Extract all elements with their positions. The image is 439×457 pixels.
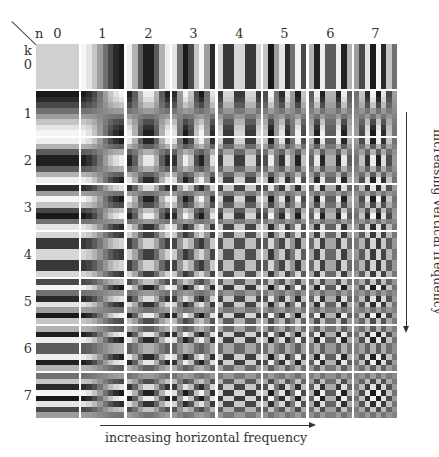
basis-tile-n2-k5	[127, 279, 170, 324]
basis-tile-n1-k0	[81, 44, 124, 89]
basis-tile-n5-k1	[263, 91, 306, 136]
basis-tile-n3-k0	[172, 44, 215, 89]
tile-cell	[392, 271, 397, 277]
basis-tile-n0-k5	[36, 279, 79, 324]
tile-cell	[165, 365, 170, 371]
basis-tile-n4-k0	[218, 44, 261, 89]
basis-tile-n4-k5	[218, 279, 261, 324]
tile-cell	[347, 318, 352, 324]
basis-tile-n3-k6	[172, 326, 215, 371]
basis-tile-n0-k0	[36, 44, 79, 89]
tile-cell	[165, 83, 170, 89]
tile-cell	[347, 224, 352, 230]
tile-cell	[256, 365, 261, 371]
row-label-k6: 6	[21, 342, 35, 355]
tile-cell	[301, 177, 306, 183]
tile-cell	[347, 412, 352, 418]
tile-cell	[210, 83, 215, 89]
basis-tile-n2-k0	[127, 44, 170, 89]
basis-tile-n1-k4	[81, 232, 124, 277]
basis-tile-n1-k7	[81, 373, 124, 418]
tile-cell	[210, 224, 215, 230]
basis-tile-n0-k3	[36, 185, 79, 230]
basis-tile-n7-k3	[354, 185, 397, 230]
column-label-n5: 5	[275, 27, 295, 40]
tile-cell	[301, 224, 306, 230]
tile-cell	[392, 365, 397, 371]
basis-tile-n0-k6	[36, 326, 79, 371]
basis-tile-n7-k1	[354, 91, 397, 136]
tile-cell	[347, 271, 352, 277]
tile-cell	[165, 271, 170, 277]
tile-cell	[119, 130, 124, 136]
tile-cell	[256, 318, 261, 324]
tile-cell	[210, 318, 215, 324]
tile-cell	[392, 224, 397, 230]
row-label-k4: 4	[21, 248, 35, 261]
tile-cell	[74, 224, 79, 230]
tile-cell	[301, 130, 306, 136]
column-label-n4: 4	[230, 27, 250, 40]
basis-tile-n5-k6	[263, 326, 306, 371]
vertical-arrow-icon	[406, 112, 407, 327]
basis-tile-n6-k7	[309, 373, 352, 418]
basis-tile-n4-k3	[218, 185, 261, 230]
tile-cell	[165, 177, 170, 183]
basis-tile-n2-k1	[127, 91, 170, 136]
basis-tile-n3-k1	[172, 91, 215, 136]
column-label-n6: 6	[321, 27, 341, 40]
column-label-n3: 3	[184, 27, 204, 40]
basis-tile-n5-k7	[263, 373, 306, 418]
basis-tile-n2-k6	[127, 326, 170, 371]
tile-cell	[210, 271, 215, 277]
tile-cell	[119, 224, 124, 230]
tile-cell	[165, 318, 170, 324]
basis-tile-n6-k2	[309, 138, 352, 183]
horizontal-axis-label: increasing horizontal frequency	[100, 430, 312, 445]
column-label-n1: 1	[93, 27, 113, 40]
basis-tile-n1-k3	[81, 185, 124, 230]
tile-cell	[210, 365, 215, 371]
basis-tile-n2-k2	[127, 138, 170, 183]
basis-tile-n7-k5	[354, 279, 397, 324]
basis-tile-n1-k1	[81, 91, 124, 136]
basis-tile-n5-k0	[263, 44, 306, 89]
row-label-k7: 7	[21, 389, 35, 402]
tile-cell	[74, 130, 79, 136]
basis-tile-n2-k3	[127, 185, 170, 230]
basis-tile-n4-k4	[218, 232, 261, 277]
tile-cell	[165, 130, 170, 136]
tile-cell	[347, 177, 352, 183]
tile-cell	[256, 271, 261, 277]
corner-k-label: k	[24, 44, 32, 57]
column-label-n0: 0	[48, 27, 68, 40]
basis-tile-n1-k2	[81, 138, 124, 183]
tile-cell	[347, 130, 352, 136]
basis-tile-n5-k5	[263, 279, 306, 324]
basis-tile-n6-k0	[309, 44, 352, 89]
tile-cell	[301, 83, 306, 89]
basis-tile-n7-k2	[354, 138, 397, 183]
basis-tile-n3-k2	[172, 138, 215, 183]
basis-tile-n4-k2	[218, 138, 261, 183]
tile-cell	[74, 318, 79, 324]
tile-cell	[210, 412, 215, 418]
row-label-k5: 5	[21, 295, 35, 308]
tile-cell	[119, 365, 124, 371]
basis-tile-n3-k5	[172, 279, 215, 324]
tile-cell	[119, 271, 124, 277]
basis-tile-n5-k3	[263, 185, 306, 230]
tile-cell	[119, 318, 124, 324]
row-label-k1: 1	[21, 107, 35, 120]
basis-tile-n3-k4	[172, 232, 215, 277]
tile-cell	[301, 271, 306, 277]
basis-tile-n2-k4	[127, 232, 170, 277]
tile-cell	[210, 130, 215, 136]
basis-tile-n0-k2	[36, 138, 79, 183]
tile-cell	[74, 177, 79, 183]
basis-tile-n4-k7	[218, 373, 261, 418]
basis-tile-n6-k4	[309, 232, 352, 277]
tile-cell	[256, 83, 261, 89]
basis-tile-n0-k1	[36, 91, 79, 136]
tile-cell	[119, 412, 124, 418]
